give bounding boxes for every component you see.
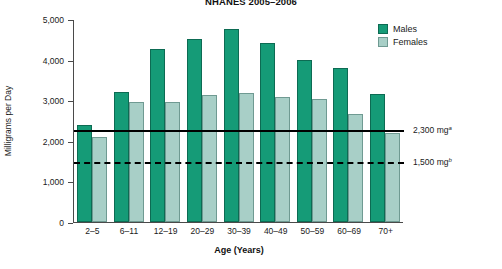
x-axis-tick-label: 2–5	[74, 226, 111, 236]
y-axis-tick-label: 3,000	[43, 96, 64, 106]
bar-group	[367, 20, 404, 222]
y-axis-title: Milligrams per Day	[3, 86, 13, 156]
x-axis-tick-label: 60–69	[331, 226, 368, 236]
bar-females[interactable]	[385, 133, 400, 222]
y-axis-tick	[68, 61, 73, 62]
legend-label: Males	[393, 24, 417, 34]
sodium-intake-bar-chart: NHANES 2005–2006 Milligrams per Day 01,0…	[0, 0, 502, 269]
bar-group	[293, 20, 330, 222]
legend-label: Females	[393, 37, 428, 47]
legend-swatch-icon	[378, 37, 388, 47]
bar-males[interactable]	[224, 29, 239, 222]
y-axis-tick	[68, 142, 73, 143]
bar-males[interactable]	[370, 94, 385, 222]
bar-groups	[74, 20, 403, 222]
chart-title: NHANES 2005–2006	[0, 0, 502, 7]
bar-males[interactable]	[297, 60, 312, 222]
bar-group	[111, 20, 148, 222]
bar-females[interactable]	[239, 93, 254, 222]
reference-line-lower-limit	[74, 162, 404, 164]
y-axis-tick	[68, 223, 73, 224]
bar-group	[257, 20, 294, 222]
bar-females[interactable]	[312, 99, 327, 222]
bar-group	[330, 20, 367, 222]
bar-males[interactable]	[333, 68, 348, 222]
bar-group	[147, 20, 184, 222]
legend-item-females[interactable]: Females	[378, 37, 428, 47]
bar-females[interactable]	[92, 137, 107, 222]
chart-legend: MalesFemales	[378, 24, 428, 47]
legend-swatch-icon	[378, 24, 388, 34]
y-axis-tick-label: 4,000	[43, 56, 64, 66]
x-axis-tick-labels: 2–56–1112–1920–2930–3940–4950–5960–6970+	[74, 226, 404, 236]
y-axis-tick	[68, 20, 73, 21]
bar-females[interactable]	[202, 95, 217, 222]
reference-line-upper-limit	[74, 130, 404, 132]
y-axis-tick-label: 0	[59, 218, 64, 228]
x-axis-tick-label: 70+	[367, 226, 404, 236]
x-axis-tick-label: 50–59	[294, 226, 331, 236]
plot-area: 01,0002,0003,0004,0005,000 2,300 mga1,50…	[73, 20, 403, 223]
bar-males[interactable]	[114, 92, 129, 222]
y-axis-tick	[68, 101, 73, 102]
bar-males[interactable]	[260, 43, 275, 222]
bar-females[interactable]	[275, 97, 290, 222]
y-axis-tick	[68, 182, 73, 183]
x-axis-tick-label: 12–19	[147, 226, 184, 236]
reference-line-label-lower-limit: 1,500 mgb	[413, 157, 452, 168]
y-axis-tick-label: 5,000	[43, 15, 64, 25]
x-axis-title: Age (Years)	[74, 245, 404, 255]
x-axis-line	[73, 222, 403, 223]
x-axis-tick-label: 6–11	[111, 226, 148, 236]
bar-males[interactable]	[150, 49, 165, 222]
bar-group	[74, 20, 111, 222]
bar-group	[220, 20, 257, 222]
bar-males[interactable]	[77, 125, 92, 222]
reference-line-label-upper-limit: 2,300 mga	[413, 124, 452, 135]
y-axis-tick-label: 2,000	[43, 137, 64, 147]
x-axis-tick-label: 40–49	[257, 226, 294, 236]
y-axis-tick-label: 1,000	[43, 177, 64, 187]
x-axis-tick-label: 20–29	[184, 226, 221, 236]
x-axis-tick-label: 30–39	[221, 226, 258, 236]
bar-group	[184, 20, 221, 222]
legend-item-males[interactable]: Males	[378, 24, 428, 34]
